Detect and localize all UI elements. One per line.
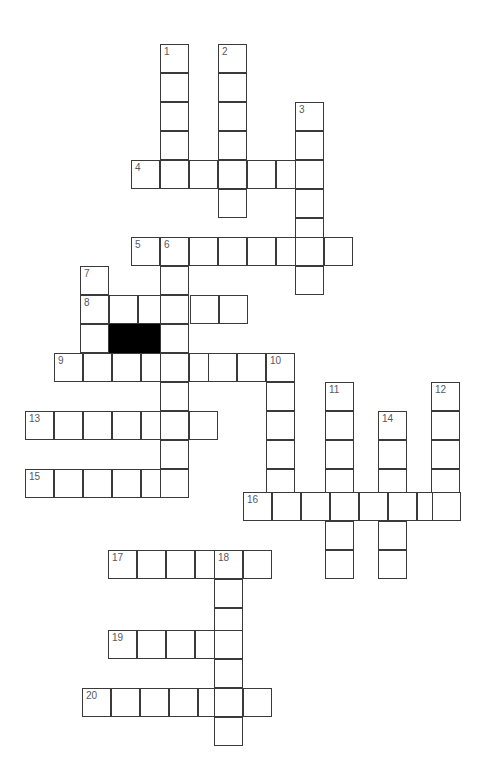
numbered-cell-15[interactable]: 15 — [25, 469, 54, 498]
letter-cell[interactable] — [272, 492, 301, 521]
letter-cell[interactable] — [160, 73, 189, 102]
letter-cell[interactable] — [189, 237, 218, 266]
numbered-cell-10[interactable]: 10 — [266, 353, 295, 382]
letter-cell[interactable] — [109, 295, 138, 324]
letter-cell[interactable] — [160, 102, 189, 131]
letter-cell[interactable] — [214, 688, 243, 717]
letter-cell[interactable] — [83, 411, 112, 440]
numbered-cell-5[interactable]: 5 — [131, 237, 160, 266]
numbered-cell-9[interactable]: 9 — [54, 353, 83, 382]
letter-cell[interactable] — [83, 469, 112, 498]
letter-cell[interactable] — [166, 630, 195, 659]
letter-cell[interactable] — [160, 353, 189, 382]
letter-cell[interactable] — [266, 440, 295, 469]
letter-cell[interactable] — [243, 688, 272, 717]
letter-cell[interactable] — [295, 189, 324, 218]
numbered-cell-14[interactable]: 14 — [378, 411, 407, 440]
letter-cell[interactable] — [295, 131, 324, 160]
numbered-cell-19[interactable]: 19 — [108, 630, 137, 659]
letter-cell[interactable] — [112, 411, 141, 440]
letter-cell[interactable] — [137, 550, 166, 579]
numbered-cell-11[interactable]: 11 — [325, 382, 354, 411]
numbered-cell-4[interactable]: 4 — [131, 160, 160, 189]
letter-cell[interactable] — [325, 411, 354, 440]
letter-cell[interactable] — [325, 550, 354, 579]
letter-cell[interactable] — [324, 237, 353, 266]
letter-cell[interactable] — [219, 295, 248, 324]
letter-cell[interactable] — [247, 237, 276, 266]
letter-cell[interactable] — [140, 688, 169, 717]
numbered-cell-18[interactable]: 18 — [214, 550, 243, 579]
letter-cell[interactable] — [190, 295, 219, 324]
clue-number-4: 4 — [135, 162, 141, 173]
letter-cell[interactable] — [218, 189, 247, 218]
letter-cell[interactable] — [137, 630, 166, 659]
letter-cell[interactable] — [160, 324, 189, 353]
letter-cell[interactable] — [218, 160, 247, 189]
clue-number-15: 15 — [29, 471, 40, 482]
letter-cell[interactable] — [189, 160, 218, 189]
clue-number-13: 13 — [29, 413, 40, 424]
letter-cell[interactable] — [214, 659, 243, 688]
letter-cell[interactable] — [189, 411, 218, 440]
letter-cell[interactable] — [166, 550, 195, 579]
numbered-cell-3[interactable]: 3 — [295, 102, 324, 131]
letter-cell[interactable] — [330, 492, 359, 521]
letter-cell[interactable] — [325, 440, 354, 469]
letter-cell[interactable] — [214, 630, 243, 659]
letter-cell[interactable] — [160, 382, 189, 411]
letter-cell[interactable] — [160, 160, 189, 189]
letter-cell[interactable] — [160, 411, 189, 440]
letter-cell[interactable] — [208, 353, 237, 382]
letter-cell[interactable] — [295, 266, 324, 295]
letter-cell[interactable] — [83, 353, 112, 382]
numbered-cell-12[interactable]: 12 — [431, 382, 460, 411]
letter-cell[interactable] — [266, 382, 295, 411]
letter-cell[interactable] — [295, 160, 324, 189]
letter-cell[interactable] — [325, 521, 354, 550]
letter-cell[interactable] — [237, 353, 266, 382]
numbered-cell-2[interactable]: 2 — [218, 44, 247, 73]
letter-cell[interactable] — [218, 73, 247, 102]
letter-cell[interactable] — [431, 440, 460, 469]
letter-cell[interactable] — [160, 295, 189, 324]
letter-cell[interactable] — [378, 550, 407, 579]
letter-cell[interactable] — [247, 160, 276, 189]
letter-cell[interactable] — [218, 102, 247, 131]
letter-cell[interactable] — [54, 411, 83, 440]
letter-cell[interactable] — [266, 411, 295, 440]
clue-number-18: 18 — [218, 552, 229, 563]
letter-cell[interactable] — [243, 550, 272, 579]
letter-cell[interactable] — [378, 521, 407, 550]
letter-cell[interactable] — [432, 492, 461, 521]
letter-cell[interactable] — [431, 411, 460, 440]
letter-cell[interactable] — [112, 469, 141, 498]
numbered-cell-16[interactable]: 16 — [243, 492, 272, 521]
numbered-cell-7[interactable]: 7 — [80, 266, 109, 295]
numbered-cell-13[interactable]: 13 — [25, 411, 54, 440]
letter-cell[interactable] — [54, 469, 83, 498]
numbered-cell-1[interactable]: 1 — [160, 44, 189, 73]
letter-cell[interactable] — [160, 469, 189, 498]
letter-cell[interactable] — [218, 237, 247, 266]
numbered-cell-20[interactable]: 20 — [82, 688, 111, 717]
numbered-cell-6[interactable]: 6 — [160, 237, 189, 266]
letter-cell[interactable] — [301, 492, 330, 521]
clue-number-19: 19 — [112, 632, 123, 643]
letter-cell[interactable] — [214, 717, 243, 746]
letter-cell[interactable] — [169, 688, 198, 717]
letter-cell[interactable] — [160, 266, 189, 295]
letter-cell[interactable] — [160, 131, 189, 160]
letter-cell[interactable] — [295, 237, 324, 266]
letter-cell[interactable] — [80, 324, 109, 353]
letter-cell[interactable] — [378, 440, 407, 469]
letter-cell[interactable] — [111, 688, 140, 717]
letter-cell[interactable] — [388, 492, 417, 521]
letter-cell[interactable] — [112, 353, 141, 382]
numbered-cell-8[interactable]: 8 — [80, 295, 109, 324]
letter-cell[interactable] — [160, 440, 189, 469]
letter-cell[interactable] — [214, 579, 243, 608]
letter-cell[interactable] — [359, 492, 388, 521]
numbered-cell-17[interactable]: 17 — [108, 550, 137, 579]
letter-cell[interactable] — [218, 131, 247, 160]
